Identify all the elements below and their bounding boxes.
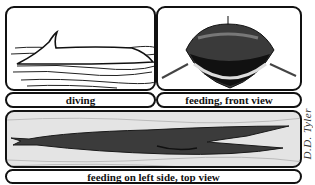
panel-feeding-top <box>5 110 302 168</box>
panel-diving <box>5 6 156 91</box>
panel-feeding-front <box>156 6 302 91</box>
caption-feeding-top: feeding on left side, top view <box>5 169 302 184</box>
caption-diving: diving <box>5 92 156 108</box>
whale-top-view-illustration <box>7 112 302 168</box>
whale-diving-illustration <box>7 8 156 91</box>
whale-front-view-illustration <box>158 8 302 91</box>
artist-credit: D.D. Tyler <box>301 108 313 160</box>
caption-feeding-front: feeding, front view <box>156 92 302 108</box>
